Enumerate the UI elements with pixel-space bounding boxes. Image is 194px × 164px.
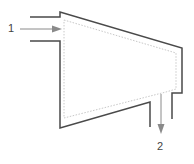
vessel-diagram — [0, 0, 194, 164]
vessel-lower-wall — [30, 41, 150, 128]
outlet-arrow-icon — [158, 94, 165, 134]
outlet-label: 2 — [157, 141, 163, 152]
inlet-arrow-icon — [20, 26, 62, 33]
inner-dotted-boundary — [64, 20, 176, 118]
inlet-label: 1 — [8, 23, 14, 34]
